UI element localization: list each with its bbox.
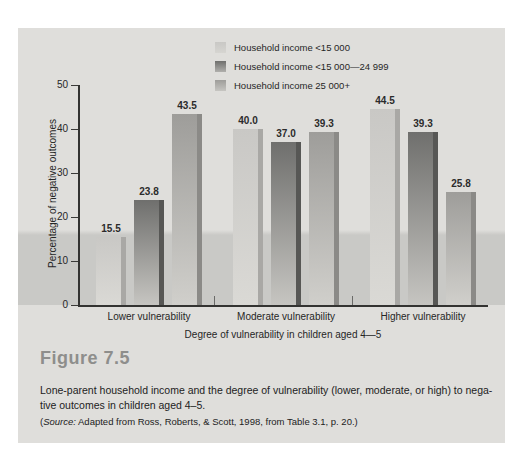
y-tick-label: 10 xyxy=(38,255,68,266)
bar-value-label: 44.5 xyxy=(364,95,406,106)
figure-caption-line: tive outcomes in children aged 4–5. xyxy=(40,398,496,413)
bar xyxy=(233,129,263,305)
legend-item: Household income <15 000—24 999 xyxy=(215,60,389,73)
x-axis-title: Degree of vulnerability in children aged… xyxy=(78,329,488,340)
bar-value-label: 39.3 xyxy=(402,118,444,129)
figure-number: Figure 7.5 xyxy=(40,348,130,369)
axis-separator-tick xyxy=(352,296,353,305)
legend-swatch-income-25000-plus xyxy=(215,80,226,91)
bar-value-label: 39.3 xyxy=(303,118,345,129)
bar xyxy=(172,114,202,305)
bar xyxy=(309,132,339,305)
legend-item: Household income <15 000 xyxy=(215,41,389,54)
bar-group: 40.037.039.3 xyxy=(233,85,339,305)
category-label-moderate: Moderate vulnerability xyxy=(237,311,335,322)
y-tick-label: 40 xyxy=(38,123,68,134)
y-tick xyxy=(71,173,78,174)
x-axis-line xyxy=(78,305,488,307)
y-tick-label: 20 xyxy=(38,211,68,222)
figure-panel: Household income <15 000 Household incom… xyxy=(18,28,505,443)
y-axis-line xyxy=(78,85,80,306)
y-tick-label: 30 xyxy=(38,167,68,178)
bar-value-label: 43.5 xyxy=(166,100,208,111)
bar-value-label: 37.0 xyxy=(265,128,307,139)
legend-label: Household income <15 000 xyxy=(234,42,350,53)
page: Household income <15 000 Household incom… xyxy=(0,0,518,463)
y-tick xyxy=(71,217,78,218)
legend-swatch-income-under-15000 xyxy=(215,42,226,53)
source-label: Source: xyxy=(43,416,76,427)
bar xyxy=(96,237,126,305)
bar xyxy=(446,192,476,306)
bar xyxy=(271,142,301,305)
figure-source: (Source: Adapted from Ross, Roberts, & S… xyxy=(40,416,496,427)
legend-swatch-income-15000-24999 xyxy=(215,61,226,72)
bar-group: 44.539.325.8 xyxy=(370,85,476,305)
bar-value-label: 40.0 xyxy=(227,115,269,126)
source-text: Adapted from Ross, Roberts, & Scott, 199… xyxy=(76,416,358,427)
y-axis-title: Percentage of negative outcomes xyxy=(47,114,58,274)
bar xyxy=(408,132,438,305)
y-tick-label: 50 xyxy=(38,79,68,90)
axis-separator-tick xyxy=(214,296,215,305)
bar-value-label: 15.5 xyxy=(90,223,132,234)
category-label-higher: Higher vulnerability xyxy=(380,311,465,322)
legend-label: Household income <15 000—24 999 xyxy=(234,61,389,72)
bar-value-label: 25.8 xyxy=(440,178,482,189)
y-tick xyxy=(71,305,78,306)
y-tick xyxy=(71,85,78,86)
bar-group: 15.523.843.5 xyxy=(96,85,202,305)
category-label-lower: Lower vulnerability xyxy=(108,311,191,322)
bar xyxy=(134,200,164,305)
bar xyxy=(370,109,400,305)
figure-caption: Lone-parent household income and the deg… xyxy=(40,383,496,413)
y-tick xyxy=(71,129,78,130)
bar-value-label: 23.8 xyxy=(128,186,170,197)
y-tick xyxy=(71,261,78,262)
figure-caption-line: Lone-parent household income and the deg… xyxy=(40,383,496,398)
y-tick-label: 0 xyxy=(38,299,68,310)
